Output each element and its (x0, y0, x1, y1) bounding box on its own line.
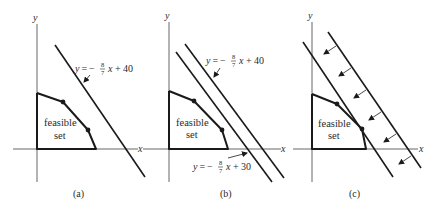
line-label-30-suffix: x + 30 (225, 161, 251, 172)
line-label-40: y=− (74, 63, 95, 74)
caption-c: (c) (349, 188, 360, 200)
arrow-icon (369, 112, 381, 120)
panel-a: y x feasible set y=− 8 7 x + 40 (a) (13, 12, 145, 200)
line-label-40-suffix: x + 40 (107, 63, 133, 74)
frac-num: 8 (232, 53, 235, 60)
arrow-icon (339, 68, 351, 76)
panel-c: y x feasible set (c) (293, 10, 424, 200)
line-label-40: y=− (205, 55, 226, 66)
vertex-dot (61, 100, 66, 105)
region-label: feasible (318, 118, 351, 129)
vertex-dot (335, 102, 340, 107)
label-pointer (214, 68, 220, 77)
panel-b: y x feasible set y=− 8 7 x + 40 y=− 8 7 … (143, 10, 286, 200)
x-axis-label: x (137, 143, 143, 154)
vertex-dot (86, 128, 91, 133)
label-pointer (228, 153, 247, 158)
arrow-icon (354, 90, 366, 98)
line-label-30: y=− (192, 161, 213, 172)
minus-sign: − (89, 63, 95, 74)
region-label: feasible (176, 117, 209, 128)
frac-num: 8 (219, 159, 222, 166)
y-axis-label: y (307, 10, 313, 21)
y-axis-label: y (164, 10, 170, 21)
arrow-icon (384, 134, 396, 142)
x-axis-label: x (418, 143, 424, 154)
region-label: set (54, 130, 66, 141)
caption-b: (b) (220, 188, 232, 200)
figure-canvas: y x feasible set y=− 8 7 x + 40 (a) y x … (0, 0, 434, 210)
frac-den: 7 (219, 167, 223, 174)
frac-den: 7 (101, 69, 105, 76)
label-pointer (84, 75, 90, 82)
frac-den: 7 (232, 61, 236, 68)
line-label-40-suffix: x + 40 (238, 55, 264, 66)
region-label: set (186, 129, 198, 140)
arrow-icon (399, 156, 411, 164)
y-axis-label: y (32, 12, 38, 23)
region-label: feasible (44, 117, 77, 128)
vertex-dot (192, 99, 197, 104)
vertex-dot (220, 128, 225, 133)
x-axis-label: x (280, 143, 286, 154)
region-label: set (328, 130, 340, 141)
frac-num: 8 (101, 61, 104, 68)
caption-a: (a) (73, 188, 84, 200)
arrow-icon (324, 46, 336, 54)
